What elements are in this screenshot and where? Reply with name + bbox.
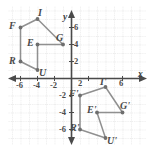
y-axis-label: y	[63, 13, 67, 23]
label-U-prime: U'	[107, 136, 117, 146]
vertex-G	[61, 43, 65, 47]
label-E: E	[27, 38, 34, 48]
coordinate-plane-figure: F I G E U R F' I' G' E' U' R' -6 -4 -2 2…	[0, 0, 151, 149]
y-tick-label-4: 4	[74, 40, 78, 49]
label-R: R	[9, 56, 16, 66]
label-F: F	[9, 21, 16, 31]
y-tick-label-6: 6	[74, 23, 78, 32]
label-E-prime: E'	[87, 105, 96, 115]
vertex-F	[19, 26, 23, 30]
y-tick-label--6: -6	[59, 125, 66, 134]
x-tick-label--6: -6	[16, 81, 23, 90]
label-I-prime: I'	[100, 77, 107, 87]
x-tick-label--2: -2	[50, 81, 57, 90]
label-I: I	[38, 8, 42, 18]
x-axis-label: x	[138, 70, 143, 80]
vertex-E	[36, 43, 40, 47]
label-F-prime: F'	[69, 89, 78, 99]
x-tick-label--4: -4	[33, 81, 40, 90]
y-tick-label--2: -2	[59, 91, 66, 100]
label-R-prime: R'	[70, 123, 79, 133]
y-tick-label--4: -4	[59, 108, 66, 117]
y-tick-label-2: 2	[74, 57, 78, 66]
label-G-prime: G'	[120, 101, 130, 111]
label-U: U	[39, 68, 46, 78]
vertex-R	[19, 60, 23, 64]
label-G: G	[56, 33, 63, 43]
x-tick-label-6: 6	[119, 79, 123, 88]
x-tick-label-2: 2	[78, 79, 82, 88]
vertex-F-prime	[78, 94, 82, 98]
vertex-G-prime	[121, 111, 125, 115]
